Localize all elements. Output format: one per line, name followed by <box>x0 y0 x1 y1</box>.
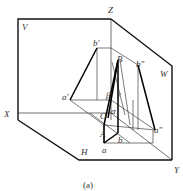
point-a-prime-label: a' <box>62 92 70 102</box>
plane-h-label: H <box>80 147 88 157</box>
point-b-double-prime-label: b" <box>136 59 145 69</box>
point-B-label: B <box>117 54 123 64</box>
axis-y-label: Y <box>174 165 180 175</box>
h-plane <box>18 113 172 160</box>
axis-x-label: X <box>3 109 10 119</box>
plane-w-label: W <box>160 69 169 79</box>
point-a-label: a <box>102 145 107 155</box>
point-O-label: O <box>100 111 107 121</box>
figure-caption: (a) <box>83 180 93 190</box>
point-b-label: b <box>118 135 123 145</box>
plane-v-label: V <box>22 22 29 32</box>
point-b-prime-label: b' <box>93 38 101 48</box>
angle-alpha-label: α <box>111 106 116 116</box>
point-A-label: A <box>99 129 106 139</box>
axis-z-label: Z <box>108 5 114 15</box>
projection-diagram: Z V W H X Y b' b" a' a" a b A B O α β γ … <box>0 0 183 191</box>
point-a-double-prime-label: a" <box>154 125 163 135</box>
angle-beta-label: β <box>105 90 111 100</box>
angle-gamma-label: γ <box>117 89 121 99</box>
